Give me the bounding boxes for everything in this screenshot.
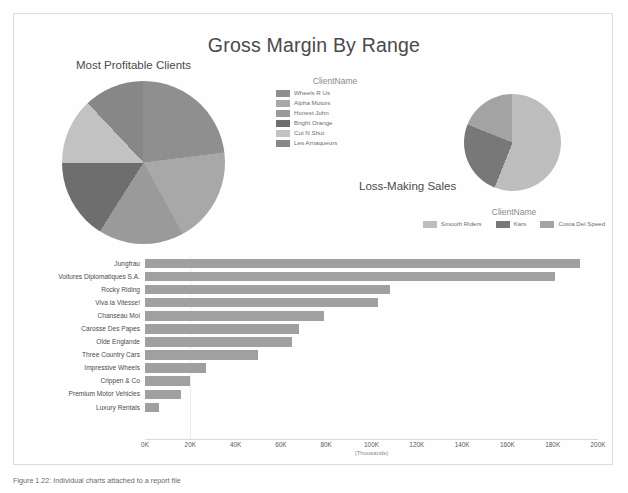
legend-swatch-icon <box>276 130 290 137</box>
pie-loss-subtitle: Loss-Making Sales <box>359 180 456 192</box>
report-page: Gross Margin By Range Most Profitable Cl… <box>13 13 613 465</box>
x-axis-tick-label: 120K <box>409 441 424 448</box>
bar-fill[interactable] <box>145 311 324 321</box>
legend-item-label: Costa Del Speed <box>558 220 605 228</box>
legend-swatch-icon <box>276 140 290 147</box>
bar-chart-row[interactable]: Crippen & Co <box>32 375 598 388</box>
bar-fill[interactable] <box>145 350 258 360</box>
legend-item-label: Kars <box>514 220 527 228</box>
bar-category-label: Viva la Vitesse! <box>32 299 145 307</box>
legend-swatch-icon <box>276 120 290 127</box>
legend-swatch-icon <box>276 100 290 107</box>
x-axis-tick-label: 0K <box>141 441 149 448</box>
legend-item[interactable]: Honest John <box>276 109 394 117</box>
bar-category-label: Chanseau Moi <box>32 312 145 320</box>
bar-fill[interactable] <box>145 337 292 347</box>
bar-track <box>145 257 598 270</box>
bar-chart-row[interactable]: Rocky Riding <box>32 283 598 296</box>
legend-item[interactable]: Les Arnaqueurs <box>276 139 394 147</box>
legend-swatch-icon <box>423 221 437 228</box>
bar-fill[interactable] <box>145 376 190 386</box>
pie-chart-loss-making-sales[interactable] <box>464 94 561 191</box>
bar-chart-row[interactable]: Jungfrau <box>32 257 598 270</box>
bar-fill[interactable] <box>145 403 159 413</box>
bar-category-label: Impressive Wheels <box>32 364 145 372</box>
x-axis-tick-label: 20K <box>185 441 196 448</box>
bar-chart-row[interactable]: Viva la Vitesse! <box>32 296 598 309</box>
legend-item[interactable]: Kars <box>496 220 527 228</box>
bar-chart-row[interactable]: Three Country Cars <box>32 349 598 362</box>
legend-item[interactable]: Wheels R Us <box>276 89 394 97</box>
legend-most-profitable-clients: ClientName Wheels R UsAlpha MotorsHonest… <box>276 76 394 147</box>
bar-category-label: Premium Motor Vehicles <box>32 390 145 398</box>
bar-fill[interactable] <box>145 272 555 282</box>
legend-item[interactable]: Cut N Shut <box>276 129 394 137</box>
bar-fill[interactable] <box>145 324 299 334</box>
bar-chart-row[interactable]: Luxury Rentals <box>32 401 598 414</box>
bar-chart-row[interactable]: Carosse Des Papes <box>32 322 598 335</box>
bar-chart-rows: JungfrauVoitures Diplomatiques S.A.Rocky… <box>32 257 598 414</box>
bar-fill[interactable] <box>145 285 390 295</box>
legend-item[interactable]: Costa Del Speed <box>540 220 605 228</box>
legend-item-label: Cut N Shut <box>294 129 324 137</box>
bar-category-label: Voitures Diplomatiques S.A. <box>32 273 145 281</box>
legend-swatch-icon <box>276 110 290 117</box>
bar-track <box>145 309 598 322</box>
bar-fill[interactable] <box>145 259 580 269</box>
x-axis-tick-label: 200K <box>591 441 606 448</box>
x-axis-tick-label: 160K <box>500 441 515 448</box>
legend-items: Smooth RidersKarsCosta Del Speed <box>416 220 612 228</box>
legend-item[interactable]: Alpha Motors <box>276 99 394 107</box>
x-axis-tick-label: 180K <box>545 441 560 448</box>
pie-chart-most-profitable-clients[interactable] <box>62 81 225 244</box>
bar-category-label: Rocky Riding <box>32 286 145 294</box>
bar-track <box>145 283 598 296</box>
bar-chart-row[interactable]: Chanseau Moi <box>32 309 598 322</box>
bar-track <box>145 336 598 349</box>
bar-chart-row[interactable]: Impressive Wheels <box>32 362 598 375</box>
legend-item-label: Bright Orange <box>294 119 333 127</box>
legend-title: ClientName <box>416 207 612 217</box>
bar-track <box>145 270 598 283</box>
bar-track <box>145 388 598 401</box>
x-axis-tick-label: 140K <box>455 441 470 448</box>
bar-track <box>145 401 598 414</box>
page-title: Gross Margin By Range <box>14 34 614 57</box>
x-axis-tick-label: 40K <box>230 441 241 448</box>
bar-track <box>145 349 598 362</box>
legend-item-label: Smooth Riders <box>441 220 482 228</box>
bar-category-label: Olde Englande <box>32 338 145 346</box>
x-axis-tick-label: 60K <box>275 441 286 448</box>
bar-chart-row[interactable]: Olde Englande <box>32 336 598 349</box>
pie-profitable-subtitle: Most Profitable Clients <box>76 59 191 71</box>
legend-swatch-icon <box>496 221 510 228</box>
legend-item[interactable]: Bright Orange <box>276 119 394 127</box>
legend-item[interactable]: Smooth Riders <box>423 220 482 228</box>
bar-chart-axis-unit: (Thousands) <box>145 450 598 456</box>
bar-fill[interactable] <box>145 298 378 308</box>
x-axis-tick-label: 80K <box>321 441 332 448</box>
legend-item-label: Les Arnaqueurs <box>294 139 337 147</box>
bar-category-label: Crippen & Co <box>32 377 145 385</box>
bar-fill[interactable] <box>145 363 206 373</box>
bar-chart-x-axis-line <box>145 439 598 440</box>
bar-track <box>145 322 598 335</box>
legend-item-label: Alpha Motors <box>294 99 330 107</box>
bar-category-label: Jungfrau <box>32 260 145 268</box>
bar-fill[interactable] <box>145 390 181 400</box>
bar-category-label: Carosse Des Papes <box>32 325 145 333</box>
figure-caption: Figure 1.22: Individual charts attached … <box>13 476 613 485</box>
bar-track <box>145 362 598 375</box>
legend-loss-making-sales: ClientName Smooth RidersKarsCosta Del Sp… <box>416 207 612 228</box>
bar-category-label: Three Country Cars <box>32 351 145 359</box>
bar-track <box>145 296 598 309</box>
bar-chart-row[interactable]: Voitures Diplomatiques S.A. <box>32 270 598 283</box>
bar-chart-row[interactable]: Premium Motor Vehicles <box>32 388 598 401</box>
legend-item-label: Honest John <box>294 109 329 117</box>
bar-category-label: Luxury Rentals <box>32 404 145 412</box>
legend-swatch-icon <box>540 221 554 228</box>
bar-track <box>145 375 598 388</box>
bar-chart-gross-margin[interactable]: JungfrauVoitures Diplomatiques S.A.Rocky… <box>32 257 598 452</box>
legend-swatch-icon <box>276 90 290 97</box>
legend-title: ClientName <box>276 76 394 86</box>
